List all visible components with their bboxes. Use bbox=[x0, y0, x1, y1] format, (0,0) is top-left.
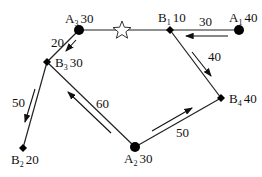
flow-label-a2-b4: 50 bbox=[176, 125, 189, 140]
transport-network-diagram: A330 B110 A140 B330 B440 B220 A230 30 40… bbox=[0, 0, 262, 177]
edge-b1-b4 bbox=[170, 30, 221, 98]
flow-label-a1-b1: 30 bbox=[199, 14, 212, 29]
label-b1: B110 bbox=[158, 10, 186, 27]
star-icon bbox=[113, 21, 131, 38]
label-b3: B330 bbox=[55, 55, 83, 72]
label-a1: A140 bbox=[229, 10, 257, 27]
node-b2 bbox=[19, 144, 27, 152]
flow-label-b1-b4: 40 bbox=[208, 49, 221, 64]
flow-label-a3-b3: 20 bbox=[51, 35, 64, 50]
edge-b3-b2 bbox=[23, 62, 47, 148]
flow-label-b3-b2: 50 bbox=[12, 95, 25, 110]
flow-label-a2-b3: 60 bbox=[96, 96, 109, 111]
label-b4: B440 bbox=[229, 91, 257, 108]
label-b2: B220 bbox=[11, 152, 39, 169]
flow-arrow-b3-b2 bbox=[25, 89, 35, 122]
edge-a2-b3 bbox=[47, 62, 135, 147]
flow-arrows bbox=[25, 36, 228, 133]
label-a2: A230 bbox=[124, 151, 152, 168]
